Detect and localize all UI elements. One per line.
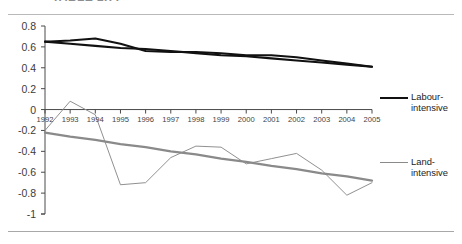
x-axis-tick-label-2004: 2004 — [338, 115, 355, 124]
x-axis-tick-label-2003: 2003 — [313, 115, 330, 124]
y-axis-tick-label-8: -0.8 — [2, 188, 36, 198]
legend-swatch-labour-wrap — [380, 97, 408, 101]
legend-label-land-line2: intensive — [411, 167, 448, 178]
y-axis-tick-label-9: -1 — [2, 209, 36, 219]
page-title: TABLE 1.77 — [52, 0, 122, 4]
y-axis-tick-label-5: -0.2 — [2, 125, 36, 135]
x-axis-tick-label-2001: 2001 — [263, 115, 280, 124]
y-axis-tick-label-0: 0.8 — [2, 21, 36, 31]
x-axis-tick-label-2005: 2005 — [364, 115, 381, 124]
legend-line-swatch-land — [380, 162, 408, 163]
legend-label-land: Land- intensive — [411, 157, 462, 178]
x-axis-tick-label-2002: 2002 — [288, 115, 305, 124]
y-axis-tick-label-3: 0.2 — [2, 84, 36, 94]
bottom-divider-rule — [8, 231, 454, 232]
legend-label-labour-line2: intensive — [411, 102, 448, 113]
x-axis-tick-label-1992: 1992 — [37, 115, 54, 124]
chart-title-clipped: TABLE 1.77 — [0, 0, 462, 12]
y-axis-tick-label-4: 0 — [2, 105, 36, 115]
chart-page: TABLE 1.77 0.80.60.40.20-0.2-0.4-0.6-0.8… — [0, 0, 462, 244]
y-axis-tick-label-7: -0.6 — [2, 167, 36, 177]
x-axis-tick-label-1998: 1998 — [187, 115, 204, 124]
x-axis-tick-label-1995: 1995 — [112, 115, 129, 124]
series-line-land-intensive-trend — [45, 133, 372, 181]
legend-label-labour: Labour- intensive — [411, 92, 462, 113]
legend-label-labour-line1: Labour- — [411, 91, 443, 102]
series-line-labour-intensive-trend — [45, 42, 372, 67]
x-axis-tick-label-1996: 1996 — [137, 115, 154, 124]
y-axis-tick-label-6: -0.4 — [2, 146, 36, 156]
y-axis-tick-label-2: 0.4 — [2, 63, 36, 73]
x-axis-tick-label-1994: 1994 — [87, 115, 104, 124]
legend-swatch-land-wrap — [380, 162, 408, 166]
x-axis-tick-label-1999: 1999 — [213, 115, 230, 124]
x-axis-tick-label-1993: 1993 — [62, 115, 79, 124]
legend-line-swatch-labour — [380, 97, 408, 99]
x-axis-tick-label-2000: 2000 — [238, 115, 255, 124]
x-axis-tick-label-1997: 1997 — [162, 115, 179, 124]
y-axis-tick-label-1: 0.6 — [2, 42, 36, 52]
legend-label-land-line1: Land- — [411, 156, 435, 167]
